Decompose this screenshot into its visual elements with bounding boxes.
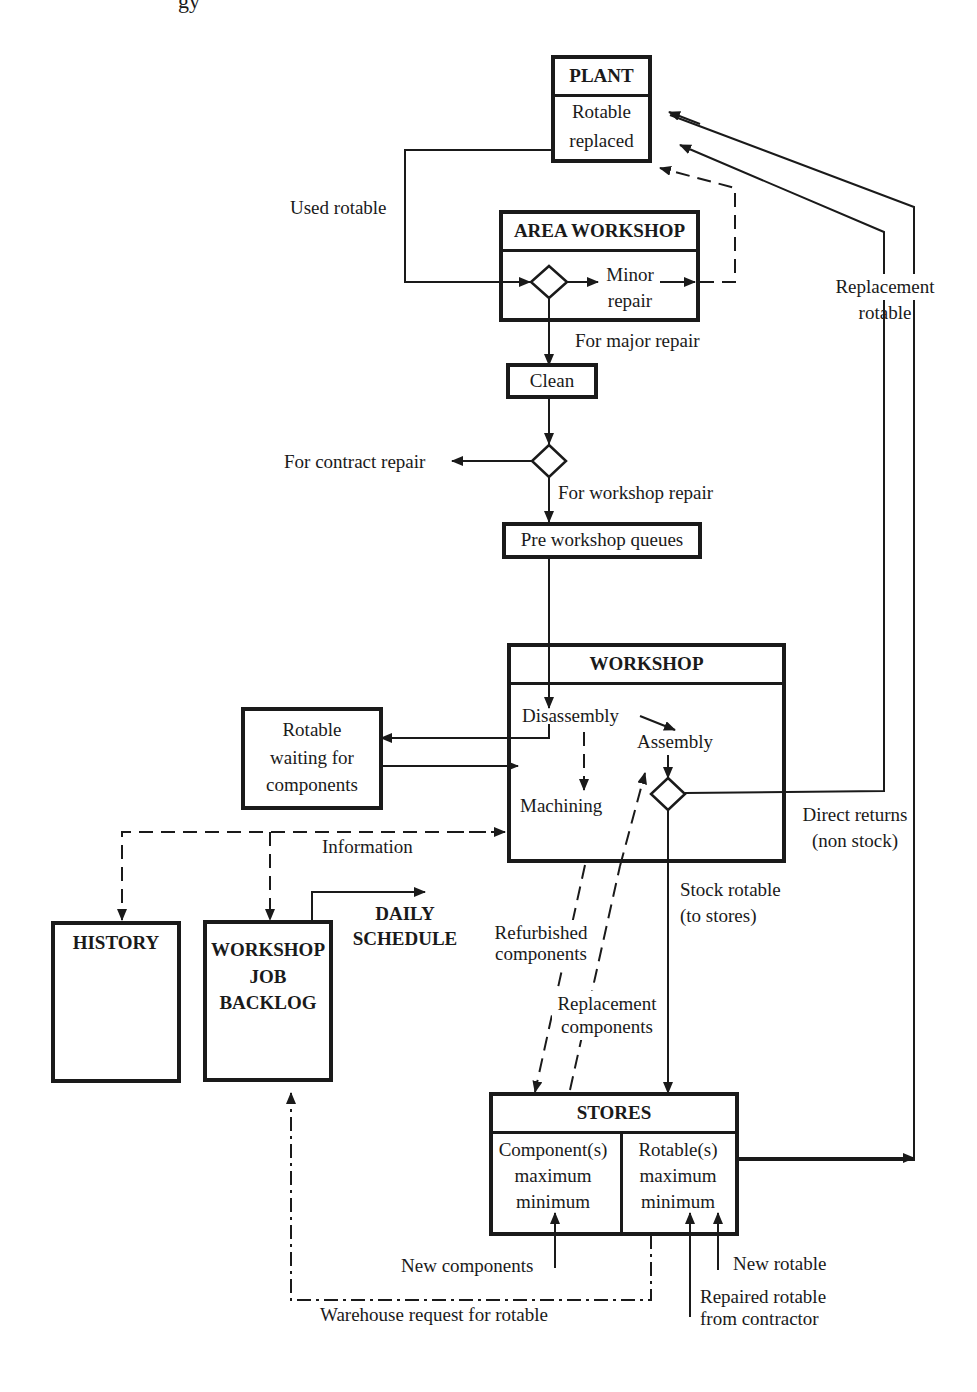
assembly-label: Assembly [637,729,713,755]
rotable-waiting-line1: Rotable [241,717,383,743]
clean-label: Clean [506,368,598,394]
daily-schedule-line2: SCHEDULE [345,926,465,952]
rotable-waiting-line3: components [241,772,383,798]
workshop-title: WORKSHOP [511,647,782,685]
stores-title: STORES [493,1096,735,1134]
stores-rotables-line1: Rotable(s) [619,1137,737,1163]
stores-rotables-line3: minimum [619,1189,737,1215]
label-replacement-rotable-line1: Replacement [825,274,945,300]
stores-components-line3: minimum [489,1189,617,1215]
label-stock-rotable-line1: Stock rotable [680,877,781,903]
rotable-waiting-line2: waiting for [241,745,383,771]
label-used-rotable: Used rotable [290,195,387,221]
pre-workshop-queues-label: Pre workshop queues [502,527,702,553]
label-for-workshop-repair: For workshop repair [558,480,713,506]
decision-diamond-repair-route [532,445,566,477]
job-backlog-line3: BACKLOG [203,990,333,1016]
job-backlog-line2: JOB [203,964,333,990]
label-direct-returns-line2: (non stock) [790,828,920,854]
label-direct-returns-line1: Direct returns [790,802,920,828]
stores-components-line1: Component(s) [489,1137,617,1163]
history-title: HISTORY [51,930,181,956]
stores-rotables-line2: maximum [619,1163,737,1189]
label-replacement-rotable-line2: rotable [825,300,945,326]
label-new-components: New components [401,1253,533,1279]
label-replacement-components-line2: components [552,1014,662,1040]
plant-body-line2: replaced [551,128,652,154]
label-new-rotable: New rotable [733,1251,826,1277]
label-repaired-rotable-line2: from contractor [700,1306,819,1332]
disassembly-label: Disassembly [522,703,619,729]
area-workshop-title: AREA WORKSHOP [503,214,696,252]
label-information: Information [322,834,413,860]
stores-components-line2: maximum [489,1163,617,1189]
label-for-major-repair: For major repair [575,328,700,354]
job-backlog-line1: WORKSHOP [203,937,333,963]
label-refurbished-line2: components [486,941,596,967]
daily-schedule-line1: DAILY [345,901,465,927]
label-stock-rotable-line2: (to stores) [680,903,757,929]
minor-repair-line1: Minor [598,262,662,288]
plant-title: PLANT [555,59,648,97]
label-warehouse-request: Warehouse request for rotable [320,1302,548,1328]
label-for-contract-repair: For contract repair [284,449,425,475]
plant-body-line1: Rotable [551,99,652,125]
minor-repair-line2: repair [598,288,662,314]
machining-label: Machining [520,793,602,819]
